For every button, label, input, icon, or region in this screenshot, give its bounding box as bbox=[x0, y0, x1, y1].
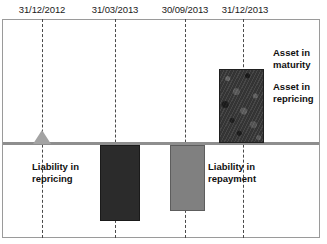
bar-asset-in-repricing bbox=[100, 145, 140, 221]
annotation-liability-repricing-line2: repricing bbox=[32, 173, 79, 185]
gap-profile-chart: 31/12/2012 31/03/2013 30/09/2013 31/12/2… bbox=[0, 0, 327, 244]
legend-entry-asset-in-repricing-line1: Asset in bbox=[273, 81, 314, 93]
bar-asset-in-maturity bbox=[219, 69, 264, 143]
legend-entry-asset-in-maturity-line2: maturity bbox=[273, 59, 310, 71]
annotation-liability-repayment-line1: Liability in bbox=[208, 161, 256, 173]
legend-entry-asset-in-maturity: Asset in maturity bbox=[273, 47, 310, 70]
x-tick-label-4: 31/12/2013 bbox=[222, 4, 269, 15]
legend-entry-asset-in-repricing: Asset in repricing bbox=[273, 81, 314, 104]
gridline-31-12-2012 bbox=[42, 19, 43, 238]
legend-entry-asset-in-repricing-line2: repricing bbox=[273, 93, 314, 105]
annotation-liability-repricing-line1: Liability in bbox=[32, 161, 79, 173]
legend-entry-asset-in-maturity-line1: Asset in bbox=[273, 47, 310, 59]
bar-liability-in-repayment bbox=[170, 145, 205, 211]
x-tick-label-2: 31/03/2013 bbox=[92, 4, 139, 15]
x-tick-label-3: 30/09/2013 bbox=[162, 4, 209, 15]
annotation-liability-repayment: Liability in repayment bbox=[208, 161, 256, 184]
annotation-liability-repayment-line2: repayment bbox=[208, 173, 256, 185]
x-tick-label-1: 31/12/2012 bbox=[19, 4, 66, 15]
annotation-liability-repricing: Liability in repricing bbox=[32, 161, 79, 184]
triangle-marker-liability-in-repricing bbox=[33, 130, 51, 144]
